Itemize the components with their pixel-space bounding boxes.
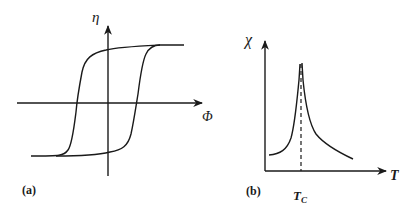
panel-a-label: (a) bbox=[22, 183, 36, 197]
chi-axis-label: χ bbox=[243, 31, 253, 49]
chi-right-branch bbox=[302, 63, 353, 159]
t-axis-label: T bbox=[390, 168, 400, 183]
panel-b-label: (b) bbox=[246, 184, 261, 198]
phi-axis-label: Φ bbox=[202, 109, 213, 124]
panel-a-hysteresis: η Φ (a) bbox=[17, 9, 213, 197]
panel-b-susceptibility: χ T (b) TC bbox=[243, 31, 400, 205]
figure: η Φ (a) χ T (b) TC bbox=[0, 0, 417, 212]
tc-label-sub: C bbox=[301, 195, 308, 205]
chi-left-branch bbox=[269, 64, 300, 155]
tc-label: TC bbox=[293, 188, 308, 205]
eta-axis-label: η bbox=[92, 9, 99, 25]
